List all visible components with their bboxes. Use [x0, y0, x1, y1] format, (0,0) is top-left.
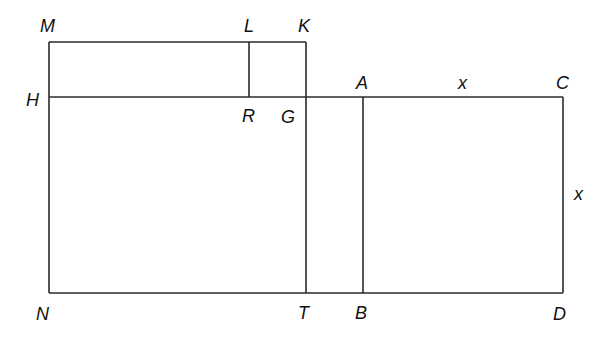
- label-top-side-x: x: [457, 73, 468, 93]
- label-K: K: [298, 16, 311, 36]
- label-A: A: [355, 73, 368, 93]
- label-D: D: [553, 304, 566, 324]
- label-N: N: [36, 304, 50, 324]
- label-C: C: [556, 73, 570, 93]
- label-B: B: [355, 303, 367, 323]
- label-M: M: [40, 16, 55, 36]
- label-right-side-x: x: [573, 184, 584, 204]
- label-T: T: [298, 303, 311, 323]
- label-R: R: [242, 106, 255, 126]
- label-G: G: [281, 107, 295, 127]
- label-L: L: [244, 16, 254, 36]
- label-H: H: [26, 90, 40, 110]
- geometric-diagram: M L K H R G A C N T B D x x: [0, 0, 613, 348]
